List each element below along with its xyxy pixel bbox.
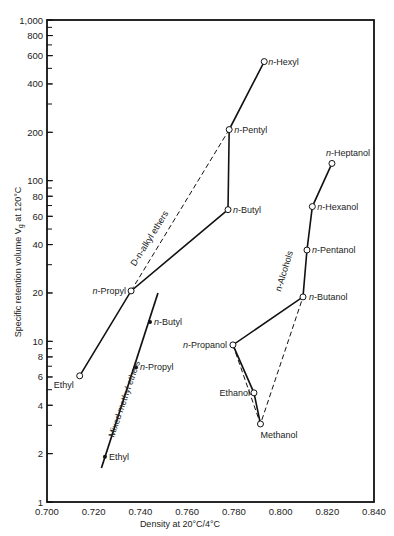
y-tick-label: 200: [27, 127, 43, 138]
y-tick-label: 600: [27, 50, 43, 61]
y-tick-label: 400: [27, 78, 43, 89]
open-circle-marker: [128, 288, 134, 294]
point-label: n-Propyl: [140, 362, 174, 372]
y-tick-label: 4: [38, 400, 43, 411]
filled-dot-marker: [103, 455, 107, 459]
point-label: Methanol: [260, 430, 297, 440]
x-tick-label: 0.820: [315, 506, 339, 517]
open-circle-marker: [251, 390, 257, 396]
point-label: n-Butanol: [309, 292, 348, 302]
series-points: [77, 59, 335, 459]
y-axis-title: Specific retention volume Vg at 120°C: [13, 186, 25, 337]
y-tick-label: 60: [32, 211, 43, 222]
point-label: n-Butyl: [233, 205, 261, 215]
point-label: n-Hexyl: [268, 57, 299, 67]
point-label: n-Butyl: [154, 317, 182, 327]
y-tick-label: 100: [27, 175, 43, 186]
axes-frame: [47, 20, 374, 502]
dashed-trend-line: [131, 130, 229, 291]
y-tick-label: 8: [38, 351, 43, 362]
y-tick-label: 1,000: [19, 15, 43, 26]
open-circle-marker: [257, 421, 263, 427]
point-label: Ethyl: [109, 452, 129, 462]
point-label: n-Heptanol: [326, 148, 370, 158]
point-label: Ethyl: [54, 380, 74, 390]
x-tick-label: 0.840: [362, 506, 386, 517]
open-circle-marker: [261, 59, 267, 65]
y-tick-label: 20: [32, 287, 43, 298]
x-tick-label: 0.740: [129, 506, 153, 517]
x-tick-label: 0.700: [35, 506, 59, 517]
point-label: Ethanol: [219, 388, 250, 398]
point-labels: Ethyln-Propyln-Butyln-Pentyln-HexylMetha…: [54, 57, 370, 462]
filled-dot-marker: [148, 320, 152, 324]
y-tick-label: 6: [38, 371, 43, 382]
series-line: [80, 62, 265, 376]
open-circle-marker: [77, 373, 83, 379]
open-circle-marker: [329, 160, 335, 166]
x-axis-title: Density at 20°C/4°C: [140, 519, 221, 529]
x-tick-label: 0.720: [82, 506, 106, 517]
y-tick-label: 800: [27, 30, 43, 41]
point-label: n-Hexanol: [317, 202, 358, 212]
point-label: n-Propanol: [183, 340, 227, 350]
y-tick-label: 2: [38, 448, 43, 459]
series-label-dialkyl: D-n-alkyl ethers: [129, 209, 171, 268]
x-tick-label: 0.780: [222, 506, 246, 517]
dashed-trend-line: [233, 297, 303, 424]
chart: 1246810204060801002004006008001,000 0.70…: [0, 0, 394, 536]
point-label: n-Propyl: [93, 286, 127, 296]
open-circle-marker: [309, 204, 315, 210]
y-tick-label: 10: [32, 336, 43, 347]
y-tick-label: 80: [32, 191, 43, 202]
x-axis-ticks: 0.7000.7200.7400.7600.7800.8000.8200.840: [35, 506, 386, 517]
open-circle-marker: [225, 207, 231, 213]
point-label: n-Pentanol: [312, 245, 356, 255]
open-circle-marker: [226, 127, 232, 133]
open-circle-marker: [304, 247, 310, 253]
y-axis-ticks: 1246810204060801002004006008001,000: [19, 15, 53, 508]
x-tick-label: 0.800: [269, 506, 293, 517]
y-tick-label: 40: [32, 239, 43, 250]
open-circle-marker: [230, 342, 236, 348]
x-tick-label: 0.760: [175, 506, 199, 517]
open-circle-marker: [300, 294, 306, 300]
point-label: n-Pentyl: [234, 125, 267, 135]
series-label-alcohols: n-Alcohols: [273, 249, 295, 293]
series-label-mixed: Mixed methyl ethers: [106, 359, 142, 439]
plot-frame: [47, 20, 374, 502]
